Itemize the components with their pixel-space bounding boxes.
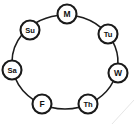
node-circle-wednesday[interactable] — [109, 64, 128, 83]
node-friday[interactable]: F — [33, 95, 52, 114]
ring-edge-thursday-to-friday — [50, 107, 79, 109]
node-saturday[interactable]: Sa — [3, 61, 22, 80]
ring-edge-saturday-to-sunday — [12, 34, 22, 61]
weekday-ring-diagram: MTuWThFSaSu — [0, 0, 134, 124]
nodes-layer: MTuWThFSaSu — [3, 5, 128, 114]
node-circle-thursday[interactable] — [79, 95, 98, 114]
node-circle-monday[interactable] — [58, 5, 77, 24]
ring-edge-wednesday-to-thursday — [96, 81, 114, 101]
ring-edge-friday-to-saturday — [15, 78, 34, 100]
node-circle-friday[interactable] — [33, 95, 52, 114]
node-sunday[interactable]: Su — [21, 21, 40, 40]
ring-graph-canvas: MTuWThFSaSu — [0, 0, 134, 124]
node-circle-tuesday[interactable] — [99, 25, 118, 44]
node-thursday[interactable]: Th — [79, 95, 98, 114]
node-circle-sunday[interactable] — [21, 21, 40, 40]
corner-edge-artifact — [112, 100, 134, 124]
ring-edge-tuesday-to-wednesday — [113, 41, 118, 64]
node-circle-saturday[interactable] — [3, 61, 22, 80]
node-wednesday[interactable]: W — [109, 64, 128, 83]
ring-edge-sunday-to-monday — [35, 15, 57, 23]
node-monday[interactable]: M — [58, 5, 77, 24]
ring-edge-monday-to-tuesday — [76, 16, 101, 28]
node-tuesday[interactable]: Tu — [99, 25, 118, 44]
